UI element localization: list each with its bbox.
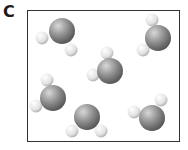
water-molecule [128, 94, 168, 132]
hydrogen-atom [36, 32, 49, 45]
oxygen-atom [145, 25, 171, 51]
oxygen-atom [40, 85, 66, 111]
oxygen-atom [97, 58, 123, 84]
water-molecule [87, 47, 124, 85]
water-molecule [30, 74, 67, 113]
hydrogen-atom [146, 14, 159, 27]
hydrogen-atom [65, 44, 78, 57]
water-molecule [36, 18, 78, 57]
oxygen-atom [74, 104, 100, 130]
water-molecule [137, 14, 172, 57]
hydrogen-atom [95, 125, 108, 138]
oxygen-atom [49, 18, 75, 44]
hydrogen-atom [41, 74, 54, 87]
hydrogen-atom [155, 94, 168, 107]
water-molecule [66, 104, 108, 138]
hydrogen-atom [101, 47, 114, 60]
water-molecules [0, 0, 188, 150]
hydrogen-atom [128, 106, 141, 119]
hydrogen-atom [66, 125, 79, 138]
oxygen-atom [139, 105, 165, 131]
